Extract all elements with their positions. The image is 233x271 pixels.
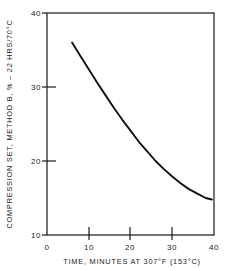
x-axis-title: TIME, MINUTES AT 307°F (153°C) [63,257,200,266]
x-axis-tick-stubs [89,235,172,240]
x-tick-label-20: 20 [125,243,135,252]
chart-figure: 40 30 20 10 0 10 20 30 40 TIME, MINUTES … [0,0,233,271]
line-chart: 40 30 20 10 0 10 20 30 40 TIME, MINUTES … [0,0,233,271]
plot-frame [47,13,214,235]
x-tick-label-10: 10 [84,243,94,252]
y-axis-title: COMPRESSION SET, METHOD B, % – 22 HRS/70… [5,20,14,229]
y-tick-label-40: 40 [31,9,41,18]
y-tick-label-30: 30 [31,83,41,92]
x-tick-label-0: 0 [44,243,49,252]
y-tick-label-20: 20 [31,157,41,166]
y-tick-label-10: 10 [31,231,41,240]
y-axis-tick-stubs [42,13,47,235]
x-tick-label-40: 40 [209,243,219,252]
x-tick-label-30: 30 [167,243,177,252]
